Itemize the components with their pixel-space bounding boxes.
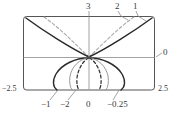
axis-label-x-zero: 0 — [86, 100, 91, 109]
callout-label-3: 3 — [86, 2, 91, 11]
curve-lower-left-gray — [70, 58, 88, 90]
curve-upper-dashed-left — [44, 17, 88, 56]
callout-label-1: 1 — [133, 2, 138, 11]
callout-label-right-0: 0 — [163, 48, 168, 57]
plot-figure: 3 2 1 0 −2.5 2.5 −1 −2 0 −0.25 — [0, 0, 178, 114]
callout-label-minus025: −0.25 — [107, 100, 128, 109]
callout-label-minus2: −2 — [60, 100, 70, 109]
plot-canvas — [0, 0, 178, 114]
callout-label-2: 2 — [115, 2, 120, 11]
leader-line-minus1 — [50, 90, 58, 100]
axis-label-x-max: 2.5 — [158, 85, 168, 93]
curve-lower-right-dashed — [90, 58, 102, 90]
curve-upper-dashed-right — [90, 17, 134, 56]
axis-label-x-min: −2.5 — [2, 85, 17, 93]
callout-label-minus1: −1 — [41, 100, 51, 109]
curve-lower-right-gray — [90, 58, 108, 90]
curve-upper-solid-left — [26, 18, 88, 57]
curve-upper-solid-right — [90, 18, 152, 57]
leader-line-2 — [118, 11, 128, 20]
leader-line-right-0 — [156, 53, 162, 57]
curve-lower-left-dashed — [77, 58, 89, 90]
